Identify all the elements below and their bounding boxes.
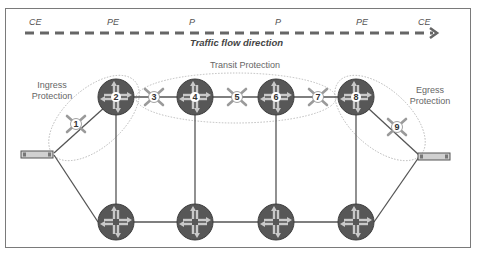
link-7-label: 7 <box>315 92 320 102</box>
router-8-label: 8 <box>353 92 358 102</box>
router-2-label: 2 <box>113 92 118 102</box>
link-9-label: 9 <box>394 122 399 132</box>
role-label-pe-left: PE <box>107 17 119 27</box>
ingress-protection-label: Ingress Protection <box>22 80 82 102</box>
router-4-label: 4 <box>192 92 197 102</box>
traffic-flow-label: Traffic flow direction <box>190 37 283 48</box>
router-6-label: 6 <box>273 92 278 102</box>
role-label-ce-left: CE <box>29 17 42 27</box>
role-label-p-left: P <box>189 17 195 27</box>
link-3-label: 3 <box>151 92 156 102</box>
router-bottom-3[interactable] <box>258 204 294 240</box>
transit-protection-label: Transit Protection <box>200 60 290 71</box>
ce-device-left[interactable] <box>21 151 53 158</box>
link-1-label: 1 <box>73 119 78 129</box>
role-label-p-right: P <box>275 17 281 27</box>
link-5-label: 5 <box>234 92 239 102</box>
egress-protection-label: Egress Protection <box>400 85 460 107</box>
ce-device-right[interactable] <box>418 153 450 160</box>
ingress-protection-zone <box>34 60 155 177</box>
links <box>54 97 419 222</box>
router-bottom-2[interactable] <box>177 204 213 240</box>
router-bottom-1[interactable] <box>98 204 134 240</box>
router-bottom-4[interactable] <box>338 204 374 240</box>
role-label-ce-right: CE <box>418 17 431 27</box>
role-label-pe-right: PE <box>356 17 368 27</box>
